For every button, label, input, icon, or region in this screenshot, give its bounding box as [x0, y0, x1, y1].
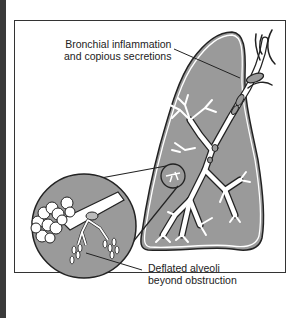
label-bronchial-inflammation: Bronchial inflammation and copious secre…: [64, 38, 171, 62]
label-deflated-alveoli: Deflated alveoli beyond obstruction: [148, 262, 237, 286]
label-line: Bronchial inflammation: [64, 38, 171, 50]
label-line: and copious secretions: [64, 50, 171, 62]
magnified-view: [31, 174, 136, 278]
label-line: beyond obstruction: [148, 274, 237, 286]
label-line: Deflated alveoli: [148, 262, 237, 274]
